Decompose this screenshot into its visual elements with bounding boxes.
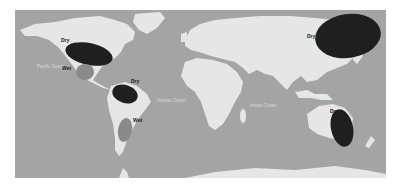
east-asia-dry-label: Dry [307, 33, 316, 39]
north-america-dry-label: Dry [61, 37, 70, 43]
northern-south-america-dry-label: Dry [131, 78, 140, 84]
ocean-label: Atlantic Ocean [157, 98, 187, 103]
southern-south-america-wet-label: Wet [133, 117, 142, 123]
ocean-label: Indian Ocean [250, 103, 277, 108]
mexico-wet-label: Wet [62, 65, 71, 71]
australia-dry-label: Dry [330, 108, 339, 114]
world-map: Pacific OceanAtlantic OceanIndian Ocean … [15, 10, 386, 178]
mexico-wet-zone [76, 64, 94, 80]
madagascar [240, 109, 246, 123]
